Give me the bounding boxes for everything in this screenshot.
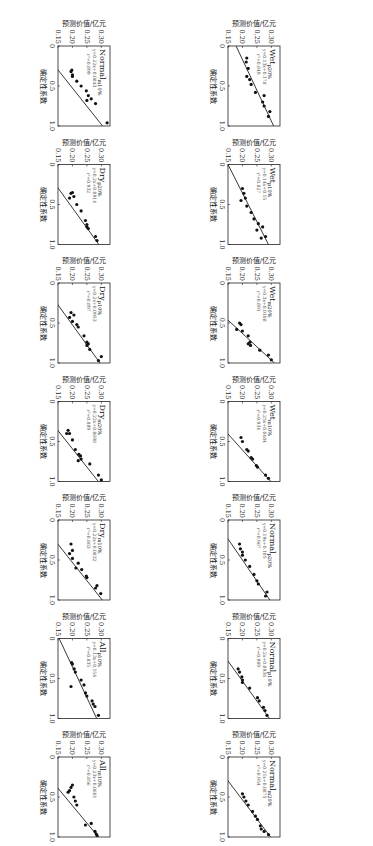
r-squared: r²=0.827: [256, 173, 261, 194]
regression-equation: y=0.13x+0.178: [262, 48, 267, 85]
data-point: [95, 239, 98, 242]
x-axis-label: 确定性系数: [39, 306, 48, 341]
panel-title: Drym20%: [97, 405, 107, 436]
data-point: [267, 833, 270, 836]
x-tick-label: 0: [48, 518, 56, 522]
data-point: [74, 799, 77, 802]
data-point: [75, 803, 78, 806]
r-squared: r²=0.863: [86, 528, 91, 549]
scatter-panel: 0.150.200.250.3000.51.0确定性系数预测价值/亿元Dryp1…: [39, 256, 110, 368]
data-point: [239, 199, 242, 202]
scatter-panel: 0.150.200.250.3000.51.0确定性系数预测价值/亿元Allp1…: [39, 612, 110, 724]
y-tick-label: 0.25: [83, 622, 91, 636]
x-tick-label: 0.5: [48, 673, 56, 683]
data-point: [260, 827, 263, 830]
data-point: [247, 334, 250, 337]
y-tick-label: 0.25: [253, 385, 261, 399]
data-point: [72, 795, 75, 798]
y-tick-label: 0.30: [267, 504, 275, 518]
data-point: [245, 56, 248, 59]
data-point: [244, 197, 247, 200]
x-tick-label: 0: [218, 44, 226, 48]
panel-title: Normalm20%: [267, 760, 277, 807]
data-point: [248, 687, 251, 690]
y-axis-label: 预测价值/亿元: [232, 138, 276, 147]
x-tick-label: 0: [218, 636, 226, 640]
data-point: [241, 440, 244, 443]
data-point: [71, 783, 74, 786]
x-tick-label: 0: [48, 399, 56, 403]
y-axis-label: 预测价值/亿元: [232, 612, 276, 621]
r-squared: r²=0.897: [86, 291, 91, 312]
data-point: [93, 830, 96, 833]
y-tick-label: 0.25: [83, 267, 91, 281]
scatter-panel: 0.150.200.250.3000.51.0确定性系数预测价值/亿元Wetm2…: [188, 256, 280, 368]
y-tick-label: 0.15: [224, 385, 232, 399]
y-tick-label: 0.25: [83, 30, 91, 44]
data-point: [244, 799, 247, 802]
data-point: [255, 229, 258, 232]
data-point: [82, 334, 85, 337]
regression-equation: y=0.22x+0.0698: [92, 404, 97, 444]
data-point: [67, 429, 70, 432]
y-tick-label: 0.30: [97, 30, 105, 44]
y-tick-label: 0.15: [54, 622, 62, 636]
y-tick-label: 0.30: [97, 148, 105, 162]
x-axis-label: 确定性系数: [39, 187, 48, 222]
y-tick-label: 0.15: [224, 148, 232, 162]
y-tick-label: 0.20: [238, 741, 246, 755]
data-point: [71, 557, 74, 560]
y-tick-label: 0.25: [253, 148, 261, 162]
data-point: [239, 547, 242, 550]
x-axis-label: 确定性系数: [39, 543, 48, 578]
scatter-panel: 0.150.200.250.3000.51.0确定性系数预测价值/亿元Norma…: [209, 730, 280, 842]
data-point: [259, 824, 262, 827]
x-tick-label: 0.5: [218, 792, 226, 802]
data-point: [69, 542, 72, 545]
x-tick-label: 0: [48, 281, 56, 285]
r-squared: r²=0.909: [256, 647, 261, 668]
x-tick-label: 1.0: [48, 595, 56, 605]
y-tick-label: 0.25: [253, 741, 261, 755]
regression-equation: y=0.13x+0.154: [92, 641, 97, 678]
x-tick-label: 0: [218, 281, 226, 285]
data-point: [88, 348, 91, 351]
y-tick-label: 0.20: [238, 622, 246, 636]
x-tick-label: 0.5: [218, 555, 226, 565]
data-point: [250, 456, 253, 459]
regression-equation: y=0.22x+0.0843: [92, 48, 97, 88]
panel-title: Wetm20%: [267, 286, 277, 318]
data-point: [84, 219, 87, 222]
y-tick-label: 0.30: [97, 385, 105, 399]
data-point: [84, 823, 87, 826]
y-tick-label: 0.20: [68, 622, 76, 636]
data-point: [265, 590, 268, 593]
x-tick-label: 0.5: [218, 199, 226, 209]
x-tick-label: 0: [218, 162, 226, 166]
data-point: [71, 73, 74, 76]
scatter-panel: 0.150.200.250.3000.51.0确定性系数预测价值/亿元Dryp2…: [39, 138, 110, 250]
data-point: [263, 104, 266, 107]
data-point: [247, 342, 250, 345]
data-point: [264, 594, 267, 597]
regression-equation: y=0.22x+0.0832: [92, 522, 97, 562]
y-tick-label: 0.25: [253, 267, 261, 281]
data-point: [100, 478, 103, 481]
regression-equation: y=0.2x+0.0936: [262, 641, 267, 678]
y-tick-label: 0.30: [97, 504, 105, 518]
y-tick-label: 0.15: [54, 504, 62, 518]
x-axis-label: 确定性系数: [39, 69, 48, 104]
y-tick-label: 0.15: [54, 148, 62, 162]
y-tick-label: 0.20: [68, 385, 76, 399]
data-point: [85, 89, 88, 92]
data-point: [261, 100, 264, 103]
y-tick-label: 0.20: [68, 30, 76, 44]
chart-svg: 0.150.200.250.3000.51.0确定性系数预测价值/亿元Norma…: [0, 0, 373, 846]
r-squared: r²=0.891: [256, 291, 261, 312]
x-tick-label: 0.5: [218, 673, 226, 683]
y-tick-label: 0.30: [97, 741, 105, 755]
data-point: [264, 235, 267, 238]
data-point: [262, 706, 265, 709]
data-point: [94, 102, 97, 105]
x-tick-label: 0.5: [218, 81, 226, 91]
